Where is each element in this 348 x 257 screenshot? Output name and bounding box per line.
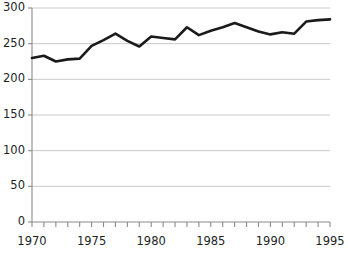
data-series-line	[32, 19, 330, 61]
line-chart: 050100150200250300 197019751980198519901…	[0, 0, 348, 257]
series-line-series-1	[32, 19, 330, 61]
y-axis-ticks	[28, 8, 32, 222]
x-axis-ticks	[32, 222, 330, 227]
chart-plot-area	[0, 0, 348, 257]
